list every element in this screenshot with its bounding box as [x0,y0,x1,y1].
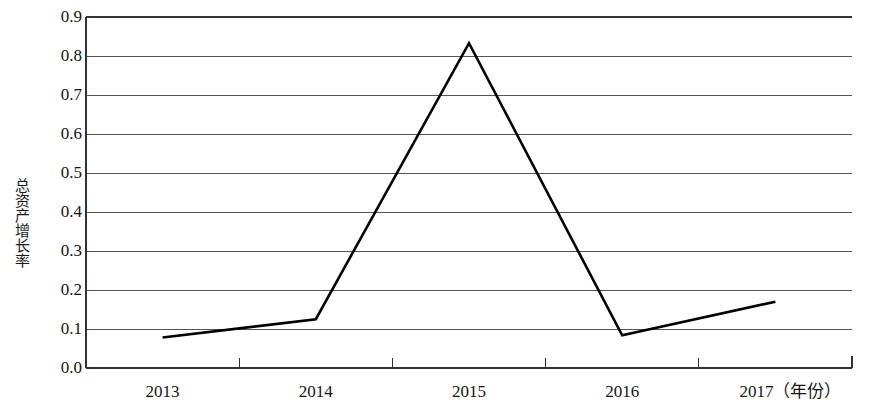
x-axis-tick-label: 2016 [605,383,639,400]
x-axis-tick-label: 2015 [452,383,486,400]
x-axis-tick-label: 2017（年份） [739,383,841,400]
line-chart: 总资产增长率 0.00.10.20.30.40.50.60.70.80.9 20… [0,0,872,412]
x-axis-tick-label: 2014 [299,383,333,400]
x-axis-tick-labels: 20132014201520162017（年份） [0,0,872,412]
x-axis-tick-label: 2013 [146,383,180,400]
